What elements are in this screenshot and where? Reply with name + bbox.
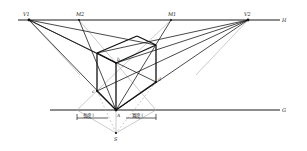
label-d: d (158, 77, 161, 82)
label-b: b (117, 57, 120, 62)
label-ground: G (282, 107, 286, 113)
label-dimension-left: 長度 l (83, 112, 94, 119)
diagram-svg: V1 M2 M1 V2 H G A b c d S 長度 l 寬度 l (0, 0, 307, 151)
vanishing-lines (29, 20, 248, 110)
label-m2: M2 (75, 11, 84, 17)
label-horizon: H (281, 17, 287, 23)
label-dimension-right: 寬度 l (132, 112, 143, 119)
perspective-diagram: V1 M2 M1 V2 H G A b c d S 長度 l 寬度 l (0, 0, 307, 151)
label-v1: V1 (23, 11, 30, 17)
label-a: A (116, 113, 121, 118)
label-v2: V2 (244, 11, 251, 17)
label-s: S (114, 136, 118, 142)
label-m1: M1 (167, 11, 176, 17)
box (97, 36, 156, 110)
